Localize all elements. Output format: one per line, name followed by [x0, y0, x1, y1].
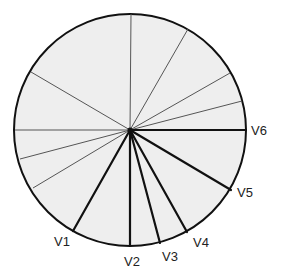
lead-label-v5: V5 [237, 185, 253, 200]
lead-label-v6: V6 [251, 123, 267, 138]
lead-label-v3: V3 [162, 249, 178, 264]
lead-label-v4: V4 [193, 235, 209, 250]
precordial-lead-diagram: V1V2V3V4V5V6 [0, 0, 284, 279]
lead-label-v2: V2 [124, 254, 140, 269]
lead-label-v1: V1 [54, 234, 70, 249]
center-point [128, 128, 133, 133]
